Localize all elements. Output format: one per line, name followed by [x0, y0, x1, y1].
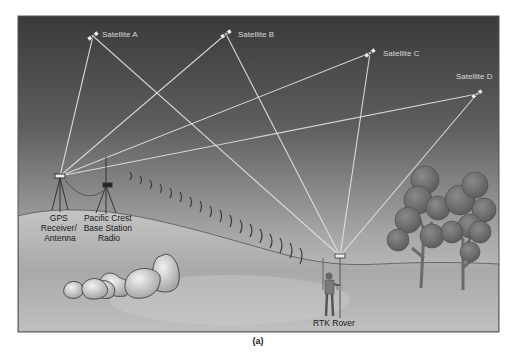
rtk-gps-diagram: Satellite A Satellite B Satellite C Sate…	[0, 0, 515, 356]
figure-caption: (a)	[253, 336, 264, 346]
satellite-d-label: Satellite D	[456, 72, 493, 81]
satellite-b-label: Satellite B	[238, 30, 274, 39]
satellite-c-label: Satellite C	[383, 49, 420, 58]
rtk-rover-label: RTK Rover	[313, 318, 355, 328]
satellite-a-label: Satellite A	[102, 30, 138, 39]
